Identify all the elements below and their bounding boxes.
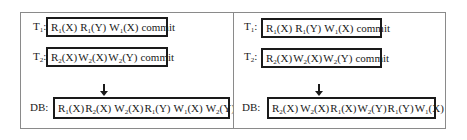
op-arg: (X) — [277, 22, 292, 34]
db-op: W2(Y) — [357, 103, 386, 114]
op-arg: (X) — [187, 102, 202, 114]
t2-op: W2(Y) — [108, 52, 137, 63]
op-arg: (X) — [92, 51, 107, 63]
op-base: W — [324, 22, 334, 34]
t1-transaction-box: R1(X) R1(Y) W1(X) commit — [261, 18, 382, 38]
op-base: commit — [355, 52, 389, 64]
op-base: W — [109, 21, 119, 33]
t2-transaction-box: R2(X) W2(X) W2(Y) commit — [46, 47, 168, 67]
op-arg: (Y) — [91, 21, 106, 33]
t2-op: R2(X) — [266, 53, 292, 64]
db-op: R2(X) — [85, 103, 111, 114]
db-schedule-box: R2(X) W2(X) R1(X) W2(Y) R1(Y) W1(X) — [267, 97, 436, 119]
op-base: commit — [141, 21, 175, 33]
schedule-panel-right: T1: R1(X) R1(Y) W1(X) commit T2: R2(X) W… — [233, 12, 446, 129]
t1-transaction-box: R1(X) R1(Y) W1(X) commit — [46, 17, 168, 37]
db-op: W1(X) — [415, 103, 444, 114]
db-op: R1(Y) — [144, 103, 170, 114]
db-op: W1(X) — [174, 103, 203, 114]
op-base: W — [293, 52, 303, 64]
op-arg: (X) — [62, 21, 77, 33]
t1-op: W1(X) — [324, 23, 353, 34]
t2-label: T2: — [33, 51, 46, 62]
t2-transaction-box: R2(X) W2(X) W2(Y) commit — [261, 48, 382, 68]
op-arg: (X) — [128, 102, 143, 114]
op-base: W — [206, 102, 216, 114]
op-arg: (X) — [314, 102, 329, 114]
t1-op: R1(Y) — [295, 23, 321, 34]
op-arg: (X) — [69, 102, 84, 114]
op-base: W — [108, 51, 118, 63]
op-arg: (X) — [338, 22, 353, 34]
db-schedule-box: R1(X) R2(X) W2(X) R1(Y) W1(X) W2(Y) — [53, 97, 230, 119]
db-label: DB: — [242, 102, 260, 113]
db-op: R1(Y) — [388, 103, 414, 114]
t1-label: T1: — [244, 21, 257, 32]
t2-commit: commit — [355, 53, 389, 64]
db-op: R1(X) — [58, 103, 84, 114]
t1-op: R1(X) — [51, 22, 77, 33]
op-arg: (Y) — [306, 22, 321, 34]
t1-commit: commit — [356, 23, 390, 34]
t2-op: W2(Y) — [323, 53, 352, 64]
op-base: W — [357, 102, 367, 114]
op-arg: (Y) — [371, 102, 386, 114]
op-arg: (X) — [429, 102, 444, 114]
op-arg: (Y) — [155, 102, 170, 114]
op-base: W — [415, 102, 425, 114]
t2-op: W2(X) — [293, 53, 322, 64]
op-base: R — [330, 102, 337, 114]
t2-op: W2(X) — [78, 52, 107, 63]
t2-label-base: T — [33, 50, 40, 62]
db-op: R2(X) — [272, 103, 298, 114]
op-arg: (X) — [62, 51, 77, 63]
t2-op: R2(X) — [51, 52, 77, 63]
op-arg: (X) — [341, 102, 356, 114]
db-op: R1(X) — [330, 103, 356, 114]
op-arg: (Y) — [337, 52, 352, 64]
op-base: W — [174, 102, 184, 114]
op-base: W — [323, 52, 333, 64]
t1-label-base: T — [33, 20, 40, 32]
t1-label: T1: — [33, 21, 46, 32]
t2-label-base: T — [244, 50, 251, 62]
op-arg: (Y) — [122, 51, 137, 63]
t2-label-colon: : — [254, 50, 257, 62]
op-arg: (Y) — [398, 102, 413, 114]
t2-commit: commit — [140, 52, 174, 63]
op-base: commit — [140, 51, 174, 63]
t2-label: T2: — [244, 51, 257, 62]
t1-label-colon: : — [254, 20, 257, 32]
db-op: W2(Y) — [206, 103, 235, 114]
op-arg: (X) — [96, 102, 111, 114]
op-base: R — [144, 102, 151, 114]
op-arg: (X) — [277, 52, 292, 64]
t1-label-base: T — [244, 20, 251, 32]
db-label: DB: — [30, 102, 48, 113]
db-op: W2(X) — [114, 103, 143, 114]
op-base: R — [388, 102, 395, 114]
schedule-panel-left: T1: R1(X) R1(Y) W1(X) commit T2: R2(X) W… — [20, 12, 234, 129]
t1-op: R1(X) — [266, 23, 292, 34]
t1-commit: commit — [141, 22, 175, 33]
op-base: W — [114, 102, 124, 114]
op-arg: (X) — [123, 21, 138, 33]
op-base: commit — [356, 22, 390, 34]
op-base: W — [300, 102, 310, 114]
op-arg: (X) — [283, 102, 298, 114]
op-base: W — [78, 51, 88, 63]
t1-op: W1(X) — [109, 22, 138, 33]
db-op: W2(X) — [300, 103, 329, 114]
op-arg: (X) — [307, 52, 322, 64]
t1-op: R1(Y) — [80, 22, 106, 33]
